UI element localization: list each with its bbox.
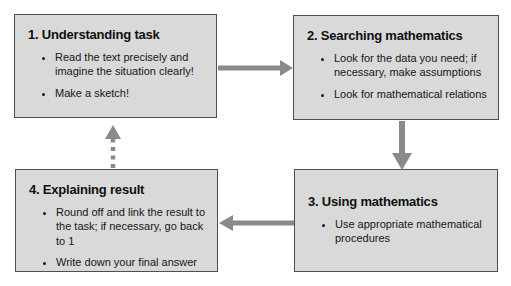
- box-explaining-result: 4. Explaining result Round off and link …: [15, 169, 218, 272]
- bullet-item: Look for mathematical relations: [334, 87, 490, 101]
- bullet-item: Make a sketch!: [55, 86, 208, 100]
- bullet-list: Use appropriate mathematical procedures: [308, 217, 489, 246]
- box-title: 2. Searching mathematics: [307, 28, 490, 43]
- bullet-item: Read the text precisely and imagine the …: [55, 50, 208, 79]
- modelling-cycle-diagram: 1. Understanding task Read the text prec…: [0, 0, 511, 286]
- box-searching-mathematics: 2. Searching mathematics Look for the da…: [293, 15, 499, 120]
- arrow-left-icon: [219, 215, 294, 231]
- bullet-list: Round off and link the result to the tas…: [29, 205, 209, 269]
- bullet-list: Look for the data you need; if necessary…: [307, 51, 490, 101]
- bullet-item: Look for the data you need; if necessary…: [334, 51, 490, 80]
- box-understanding-task: 1. Understanding task Read the text prec…: [14, 14, 217, 118]
- box-using-mathematics: 3. Using mathematics Use appropriate mat…: [294, 169, 498, 272]
- bullet-item: Round off and link the result to the tas…: [56, 205, 209, 248]
- arrow-right-icon: [218, 60, 293, 76]
- bullet-item: Use appropriate mathematical procedures: [335, 217, 489, 246]
- arrow-up-dashed-icon: [105, 125, 121, 168]
- bullet-item: Write down your final answer: [56, 255, 209, 269]
- arrow-down-icon: [392, 121, 412, 170]
- box-title: 4. Explaining result: [29, 182, 209, 197]
- box-title: 3. Using mathematics: [308, 194, 489, 209]
- bullet-list: Read the text precisely and imagine the …: [28, 50, 208, 100]
- box-title: 1. Understanding task: [28, 27, 208, 42]
